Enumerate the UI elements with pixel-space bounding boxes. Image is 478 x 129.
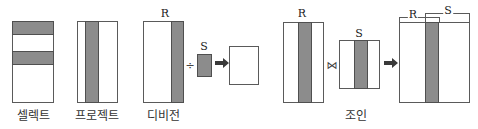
- join-r-label: R: [298, 8, 306, 19]
- join-s-column: [354, 40, 368, 89]
- join-r-column: [298, 22, 312, 103]
- join-s-label: S: [355, 28, 363, 39]
- division-result-box: [229, 46, 259, 85]
- division-r-column: [171, 21, 184, 103]
- select-label: 셀렉트: [17, 106, 50, 123]
- join-label: 조인: [345, 106, 367, 123]
- join-operator-icon: ⋈: [327, 60, 338, 71]
- project-column-band: [85, 21, 99, 103]
- right-arrow-icon: [384, 58, 398, 68]
- join-result-column: [425, 22, 439, 103]
- select-row-band-2: [12, 51, 54, 65]
- division-s-box: [197, 54, 212, 77]
- right-arrow-icon: [215, 58, 229, 68]
- project-label: 프로젝트: [75, 106, 119, 123]
- division-label: 디비전: [147, 106, 180, 123]
- join-result-s-label: S: [443, 5, 453, 16]
- divide-operator-icon: ÷: [185, 60, 194, 71]
- join-result-r-label: R: [408, 9, 418, 20]
- division-r-label: R: [161, 8, 169, 19]
- select-row-band-1: [12, 21, 54, 35]
- division-s-label: S: [200, 41, 208, 52]
